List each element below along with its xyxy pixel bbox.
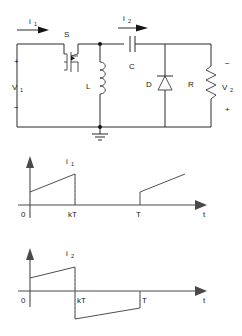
i2-axis-label-x: t [203,296,206,305]
output-plus-sign: + [225,105,230,114]
i1-tick-T: T [136,210,141,219]
output-voltage-label: V [222,83,228,92]
i1-y-axis [26,156,34,218]
switch-label: S [64,30,69,39]
i2-signal-subscript: 2 [71,253,74,259]
i2-signal-label: i [66,249,68,258]
current-i1-arrow-icon [17,27,49,34]
i2-ramp-below [75,308,140,319]
inductor-label: L [86,82,91,91]
capacitor-symbol [130,36,135,52]
current-i2-label: i [123,14,125,23]
inductor-symbol [100,44,105,127]
buck-boost-figure: i 1 i 2 [0,0,242,336]
output-voltage-subscript: 2 [230,87,233,93]
i1-ramp-1 [30,174,75,192]
capacitor-label: C [129,62,135,71]
current-i2-subscript: 2 [128,18,131,24]
resistor-symbol [206,44,216,127]
source-voltage-subscript: 1 [20,87,23,93]
waveform-i1-plot: i 1 0 kT T t [18,156,207,219]
i1-signal-subscript: 1 [71,161,74,167]
source-plus-sign: + [14,57,19,66]
i2-tick-kT: kT [77,296,86,305]
waveform-i2-plot: i 2 0 kT T t [18,248,207,319]
i2-tick-T: T [142,296,147,305]
source-minus-sign: − [14,103,19,112]
i1-x-axis [18,200,207,210]
i1-tick-origin: 0 [21,210,26,219]
ground-icon [92,127,108,140]
current-i2-arrow-icon [118,25,148,32]
output-minus-sign: − [225,59,230,68]
i1-signal-label: i [66,157,68,166]
diode-symbol [157,76,173,90]
current-i1-label: i [29,17,31,26]
i2-tick-origin: 0 [21,296,26,305]
source-voltage-label: V [12,83,18,92]
resistor-label: R [188,80,194,89]
i1-tick-kT: kT [68,210,77,219]
i1-axis-label-x: t [203,210,206,219]
i2-x-axis [18,286,207,296]
figure-root: i 1 i 2 [0,0,242,336]
current-i1-subscript: 1 [34,21,37,27]
i2-ramp-up [30,267,75,278]
switch-mosfet-symbol [64,52,78,72]
circuit-diagram: i 1 i 2 [12,14,233,140]
diode-label: D [146,80,152,89]
i1-ramp-2 [140,174,185,192]
